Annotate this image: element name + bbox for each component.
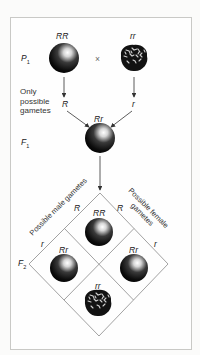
parent-right-genotype: rr xyxy=(130,32,136,41)
gametes-note: Only possible gametes xyxy=(20,87,54,116)
female-gamete-R: R xyxy=(117,204,123,213)
cell-top-genotype: RR xyxy=(93,209,105,218)
gamete-left: R xyxy=(62,100,68,109)
f2-generation-label: F2 xyxy=(18,259,26,270)
parent-rr-round-seed xyxy=(49,43,79,73)
cell-left-genotype: Rr xyxy=(59,246,68,255)
parent-rr-wrinkled-seed xyxy=(121,45,147,71)
cross-diagram xyxy=(0,0,200,355)
f1-generation-label: F1 xyxy=(21,138,29,149)
arrow-gamete-R-to-f1 xyxy=(67,111,89,127)
f2-seed-rr xyxy=(85,290,111,316)
p1-generation-label: P1 xyxy=(21,54,30,65)
cell-right-genotype: Rr xyxy=(129,246,138,255)
male-gamete-r: r xyxy=(41,240,44,249)
f2-seed-RR xyxy=(85,218,113,246)
cross-symbol: × xyxy=(95,55,100,64)
f1-genotype: Rr xyxy=(94,115,103,124)
cell-bottom-genotype: rr xyxy=(95,282,101,291)
f2-seed-Rr-left xyxy=(50,254,78,282)
f1-seed xyxy=(85,123,115,153)
arrow-gamete-r-to-f1 xyxy=(111,111,132,127)
parent-left-genotype: RR xyxy=(56,32,68,41)
f2-seed-Rr-right xyxy=(120,254,148,282)
female-gamete-r: r xyxy=(154,240,157,249)
male-gamete-R: R xyxy=(74,204,80,213)
gamete-right: r xyxy=(132,100,135,109)
